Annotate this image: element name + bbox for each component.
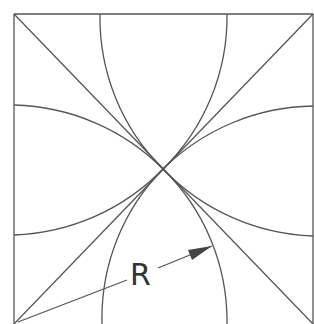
arc-lower-right <box>163 169 313 236</box>
arc-upper-right <box>163 106 313 169</box>
arc-bottom-right <box>163 169 227 324</box>
arc-upper-left <box>14 105 163 169</box>
arc-bottom-left <box>102 169 163 324</box>
radius-dimension: R <box>18 246 212 322</box>
diagram-canvas: R <box>0 0 314 324</box>
radius-label: R <box>130 257 151 292</box>
arc-top-right <box>163 14 227 169</box>
arrowhead-icon <box>188 246 212 260</box>
arc-top-left <box>100 14 163 169</box>
arc-lower-left <box>14 169 163 235</box>
